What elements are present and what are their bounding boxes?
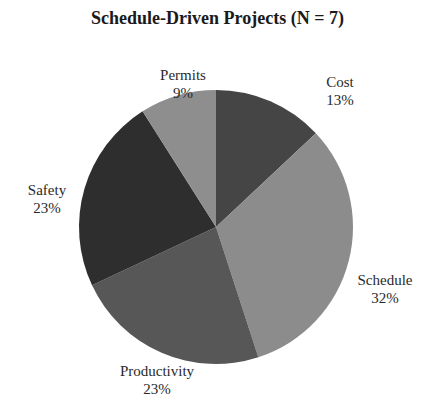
slice-label-permits: Permits: [160, 67, 206, 83]
slice-label-productivity: Productivity: [120, 363, 195, 379]
slice-label-schedule: Schedule: [358, 272, 413, 288]
slice-value-permits: 9%: [173, 85, 193, 101]
slice-value-schedule: 32%: [371, 290, 399, 306]
slice-value-productivity: 23%: [143, 381, 171, 397]
slice-label-safety: Safety: [28, 182, 67, 198]
slice-label-cost: Cost: [326, 74, 354, 90]
slice-value-cost: 13%: [326, 92, 354, 108]
pie-chart: Cost13%Schedule32%Productivity23%Safety2…: [0, 0, 435, 406]
slice-value-safety: 23%: [33, 200, 61, 216]
